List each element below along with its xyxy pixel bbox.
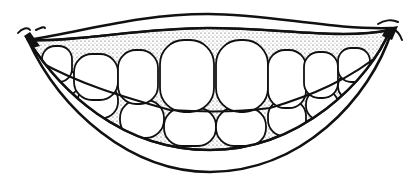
teeth (40, 40, 385, 146)
left-corner-mark (18, 27, 45, 33)
upper-tooth (304, 52, 338, 98)
smile-illustration (0, 0, 416, 185)
upper-tooth (268, 50, 306, 108)
lower-tooth (216, 108, 266, 146)
smile-drawing (0, 0, 416, 185)
upper-tooth (160, 40, 214, 112)
lower-tooth (164, 108, 216, 146)
upper-tooth (216, 40, 268, 112)
